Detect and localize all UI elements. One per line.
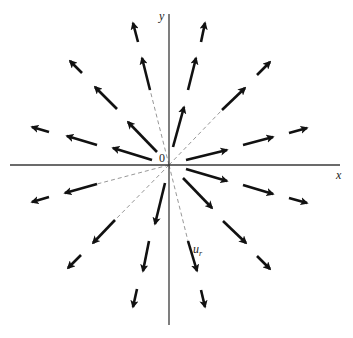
origin-label: 0: [159, 151, 165, 165]
vector-arrow-icon: [95, 87, 117, 109]
dashed-ray-line: [169, 165, 188, 241]
x-axis-label: x: [335, 168, 342, 182]
vector-arrow-icon: [201, 23, 205, 42]
vector-arrow-icon: [70, 61, 82, 73]
vector-arrow-icon: [222, 88, 245, 110]
vector-arrow-icon: [201, 290, 205, 307]
radial-vector-field-diagram: x y 0 ur: [0, 0, 353, 338]
vector-arrow-icon: [186, 150, 227, 160]
vector-arrow-icon: [243, 185, 273, 194]
vector-arrow-icon: [142, 58, 150, 90]
unit-vector-subscript: r: [199, 249, 203, 258]
vector-arrow-icon: [113, 148, 152, 160]
vector-arrow-icon: [93, 220, 115, 243]
vector-arrow-icon: [183, 178, 212, 208]
vector-arrow-icon: [67, 136, 97, 145]
vector-arrow-icon: [289, 198, 307, 203]
y-axis-label: y: [158, 9, 165, 23]
vector-arrow-icon: [133, 289, 137, 307]
vector-arrow-icon: [155, 183, 165, 224]
vector-arrow-icon: [289, 128, 307, 133]
vector-arrow-icon: [173, 107, 184, 147]
unit-vector-label: ur: [193, 242, 203, 258]
vector-arrow-icon: [257, 256, 270, 269]
vector-arrow-icon: [243, 137, 273, 145]
dashed-ray-line: [115, 165, 169, 220]
vector-arrow-icon: [257, 62, 270, 75]
dashed-ray-line: [97, 165, 169, 184]
vector-arrow-icon: [68, 255, 81, 268]
vector-arrow-icon: [188, 58, 196, 90]
vector-arrow-icon: [128, 122, 157, 152]
vector-arrow-icon: [223, 221, 246, 243]
vector-arrow-icon: [32, 197, 49, 202]
vector-arrow-icon: [186, 169, 227, 181]
vector-arrow-icon: [32, 127, 49, 132]
vector-arrow-icon: [133, 23, 138, 42]
vector-arrow-icon: [143, 241, 149, 271]
vector-arrow-icon: [65, 184, 97, 193]
